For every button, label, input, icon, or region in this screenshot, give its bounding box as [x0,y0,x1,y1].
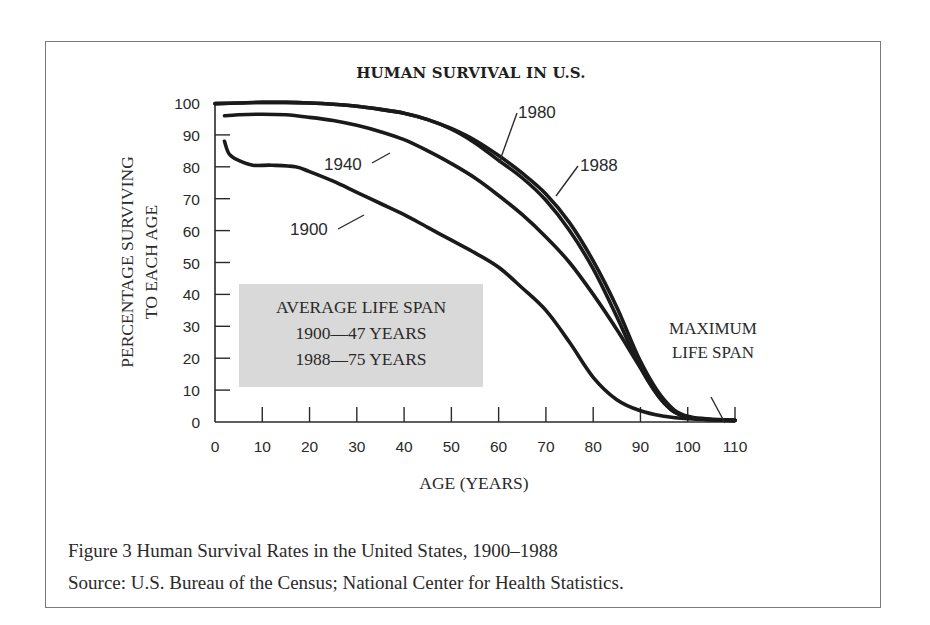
y-tick-label: 50 [183,255,201,272]
leader-1900 [338,215,364,229]
y-tick-label: 80 [183,159,201,176]
y-axis-ticks [215,103,230,390]
label-1980: 1980 [518,103,556,122]
x-tick-label: 20 [301,438,319,455]
figure-caption: Figure 3 Human Survival Rates in the Uni… [68,540,558,562]
x-tick-labels: 0102030405060708090100110 [211,438,748,455]
leader-1940 [372,153,390,163]
y-tick-label: 100 [174,95,200,112]
max-lifespan-label-1: MAXIMUM [669,319,757,338]
chart-plot: AVERAGE LIFE SPAN 1900—47 YEARS 1988—75 … [0,0,930,625]
label-1900: 1900 [290,220,328,239]
y-tick-label: 0 [191,414,200,431]
y-tick-label: 90 [183,127,201,144]
label-1988: 1988 [580,156,618,175]
x-tick-label: 0 [211,438,220,455]
x-axis-label: AGE (YEARS) [419,473,529,493]
x-tick-label: 10 [254,438,272,455]
y-tick-label: 10 [183,382,201,399]
y-tick-label: 20 [183,350,201,367]
leader-1988 [556,166,578,196]
average-life-span-1900: 1900—47 YEARS [295,323,426,343]
label-1940: 1940 [324,155,362,174]
average-life-span-1988: 1988—75 YEARS [295,349,426,369]
x-tick-label: 110 [723,438,748,455]
x-tick-label: 50 [443,438,461,455]
y-axis-label-line1: PERCENTAGE SURVIVING [117,156,137,368]
y-tick-label: 60 [183,223,201,240]
average-life-span-heading: AVERAGE LIFE SPAN [276,297,447,317]
y-tick-label: 70 [183,191,201,208]
y-axis-label-line2: TO EACH AGE [141,205,161,319]
x-tick-label: 40 [395,438,413,455]
x-tick-label: 30 [348,438,366,455]
figure-source: Source: U.S. Bureau of the Census; Natio… [68,572,624,594]
max-lifespan-label-2: LIFE SPAN [672,343,754,362]
y-tick-label: 30 [183,318,201,335]
x-tick-label: 70 [537,438,555,455]
x-tick-label: 90 [632,438,650,455]
x-tick-label: 60 [490,438,508,455]
y-tick-label: 40 [183,286,201,303]
leader-1980 [499,113,517,163]
y-tick-labels: 0102030405060708090100 [174,95,200,431]
x-tick-label: 80 [585,438,603,455]
x-tick-label: 100 [675,438,701,455]
